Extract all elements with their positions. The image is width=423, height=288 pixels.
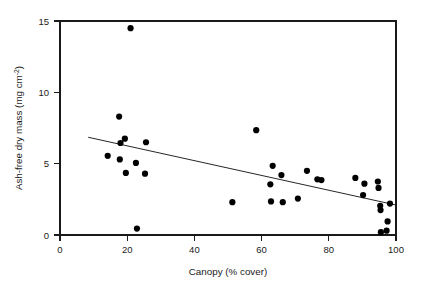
- data-point: [378, 229, 384, 235]
- data-point: [134, 225, 140, 231]
- data-point: [117, 156, 123, 162]
- data-point: [385, 218, 391, 224]
- data-point: [352, 175, 358, 181]
- x-axis: 0 20 40 60 80 100: [57, 235, 404, 255]
- data-point: [268, 198, 274, 204]
- data-point: [361, 181, 367, 187]
- data-point: [267, 181, 273, 187]
- data-point: [278, 172, 284, 178]
- data-point: [375, 185, 381, 191]
- y-axis: 0 5 10 15: [38, 16, 60, 241]
- x-tick-label-40: 40: [189, 244, 200, 255]
- data-point: [229, 199, 235, 205]
- data-point: [377, 207, 383, 213]
- data-point: [253, 127, 259, 133]
- x-axis-title: Canopy (% cover): [189, 266, 267, 277]
- x-tick-label-20: 20: [122, 244, 133, 255]
- data-point: [143, 139, 149, 145]
- y-axis-title-main: Ash-free dry mass (mg cm: [13, 75, 24, 190]
- data-point: [383, 228, 389, 234]
- scatter-plot-figure: 0 5 10 15 0 20 40 60 80 100 Canopy (% co…: [0, 0, 423, 288]
- y-tick-label-5: 5: [44, 158, 49, 169]
- data-point: [105, 153, 111, 159]
- data-point: [375, 178, 381, 184]
- data-point: [122, 136, 128, 142]
- data-point: [133, 160, 139, 166]
- data-points-layer: [105, 25, 393, 235]
- plot-canvas: 0 5 10 15 0 20 40 60 80 100 Canopy (% co…: [0, 0, 423, 288]
- data-point: [387, 201, 393, 207]
- x-tick-label-0: 0: [57, 244, 62, 255]
- x-tick-label-80: 80: [324, 244, 335, 255]
- y-axis-title: Ash-free dry mass (mg cm-2): [13, 66, 25, 190]
- data-point: [142, 171, 148, 177]
- y-axis-title-close: ): [13, 66, 24, 69]
- y-tick-label-15: 15: [38, 16, 49, 27]
- data-point: [116, 113, 122, 119]
- data-point: [295, 196, 301, 202]
- data-point: [360, 192, 366, 198]
- y-tick-label-0: 0: [44, 230, 49, 241]
- plot-frame: [60, 21, 396, 235]
- x-tick-label-60: 60: [256, 244, 267, 255]
- data-point: [280, 199, 286, 205]
- data-point: [318, 177, 324, 183]
- trend-line: [88, 137, 396, 205]
- data-point: [123, 170, 129, 176]
- y-tick-label-10: 10: [38, 87, 49, 98]
- data-point: [270, 163, 276, 169]
- data-point: [127, 25, 133, 31]
- y-axis-title-group: Ash-free dry mass (mg cm-2): [13, 66, 25, 190]
- data-point: [304, 168, 310, 174]
- x-tick-label-100: 100: [388, 244, 404, 255]
